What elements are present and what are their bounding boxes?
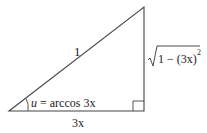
angle-arc <box>26 99 28 112</box>
hypotenuse-label: 1 <box>74 44 81 59</box>
angle-expression: = arccos 3x <box>37 96 95 110</box>
right-angle-marker <box>133 101 144 111</box>
angle-label: u = arccos 3x <box>31 96 95 110</box>
adjacent-label: 3x <box>72 116 84 130</box>
triangle-diagram: 1 u = arccos 3x 3x 1 − (3x) 2 <box>0 0 207 133</box>
opposite-radicand: 1 − (3x) <box>158 52 197 66</box>
opposite-exponent: 2 <box>197 48 201 57</box>
